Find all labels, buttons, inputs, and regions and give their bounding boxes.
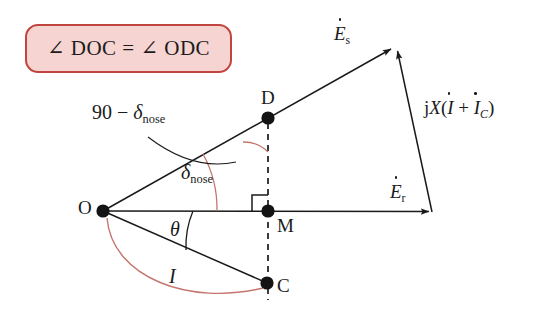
point-label-O: O <box>78 198 92 217</box>
point-dot-C <box>260 276 273 289</box>
point-label-D: D <box>261 88 275 107</box>
vector-Es-line <box>103 49 391 211</box>
figure-canvas: ∠ DOC = ∠ ODC O D M C Es Er jX(I + IC) 9… <box>0 0 553 324</box>
X-glyph: X <box>429 97 441 118</box>
delta-glyph: δ <box>133 101 142 123</box>
I-dot-glyph: I <box>447 98 453 117</box>
Er-subscript: r <box>402 192 406 205</box>
point-label-M: M <box>277 216 294 235</box>
delta-subscript-nose: nose <box>143 112 166 126</box>
point-dot-D <box>261 111 274 124</box>
arc-at-D <box>243 142 268 152</box>
arc-theta <box>186 211 193 250</box>
vector-label-jX: jX(I + IC) <box>424 98 494 120</box>
delta-subscript-nose-2: nose <box>190 172 213 186</box>
I-dot-glyph-c: I <box>474 98 480 117</box>
angle-label-theta: θ <box>170 219 180 239</box>
angle-equality-callout: ∠ DOC = ∠ ODC <box>25 24 232 73</box>
arc-current-I <box>107 218 263 293</box>
point-label-C: C <box>277 276 290 295</box>
Es-subscript: s <box>346 34 351 47</box>
delta-glyph-2: δ <box>181 161 190 183</box>
angle-label-delta-nose: δnose <box>181 162 213 185</box>
angle-equality-text: ∠ DOC = ∠ ODC <box>47 36 210 61</box>
Ic-subscript: C <box>480 108 488 121</box>
point-dot-O <box>96 204 109 217</box>
label-current-I: I <box>169 266 176 286</box>
arc-leader-90-minus-delta <box>148 137 236 164</box>
point-dot-M <box>261 204 274 217</box>
E-dot-glyph-r: E <box>390 182 402 201</box>
segment-OC <box>103 211 267 283</box>
E-dot-glyph: E <box>334 24 346 43</box>
vector-label-Es: Es <box>334 24 350 46</box>
angle-label-90-minus-delta: 90 − δnose <box>92 102 165 125</box>
vector-label-Er: Er <box>390 182 406 204</box>
